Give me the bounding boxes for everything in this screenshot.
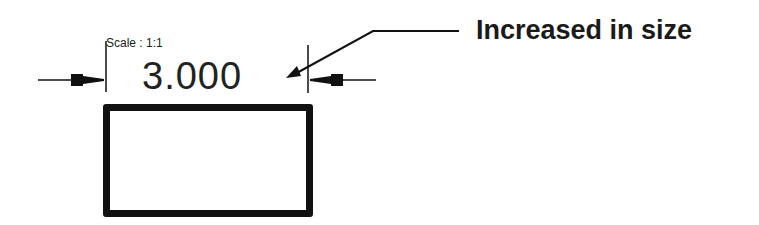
callout-text: Increased in size (476, 14, 692, 46)
leader-arrowhead-icon (286, 66, 301, 78)
left-dimension-arrow (38, 74, 104, 86)
right-dimension-arrow (310, 74, 376, 86)
rectangle-part (103, 104, 313, 217)
scale-label: Scale : 1:1 (106, 36, 163, 50)
callout-leader (286, 31, 459, 78)
dimension-value: 3.000 (142, 56, 242, 96)
